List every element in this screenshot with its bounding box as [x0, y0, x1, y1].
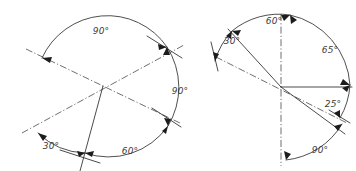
right-arrow-90-start — [284, 151, 291, 160]
drawing-canvas: 90° 90° 30° 60° — [0, 0, 356, 171]
left-dim-60-label: 60° — [122, 146, 139, 156]
right-arc-65 — [290, 15, 350, 85]
right-arrow-60-end — [281, 15, 290, 21]
right-inclined-center-line — [216, 57, 347, 123]
right-arrow-25-start — [342, 85, 350, 92]
right-arrow-30-start — [213, 52, 219, 61]
right-dim-60-label: 60° — [266, 16, 283, 26]
left-radial-solid-line — [80, 86, 103, 171]
right-dim-30-label: 30° — [224, 36, 241, 46]
left-arrow-60-start — [85, 151, 94, 157]
right-arrow-65-end — [340, 79, 350, 85]
left-dim-90-right-label: 90° — [172, 86, 189, 96]
right-arc-90-bottom — [286, 124, 342, 160]
technical-drawing-root: 90° 90° 30° 60° — [0, 0, 356, 171]
left-extension-tick-lower-right — [152, 108, 181, 127]
left-dim-90-top-label: 90° — [93, 26, 110, 36]
left-angle-diagram: 90° 90° 30° 60° — [22, 16, 188, 171]
right-arrow-90-end — [334, 124, 342, 131]
left-dim-30-label: 30° — [43, 141, 60, 151]
left-arrow-90-top-start — [42, 57, 52, 63]
right-dim-25-label: 25° — [325, 99, 342, 109]
right-angle-diagram: 30° 60° 65° 25° 90° — [211, 14, 352, 166]
right-dim-90-label: 90° — [312, 145, 329, 155]
right-dim-65-label: 65° — [322, 45, 339, 55]
